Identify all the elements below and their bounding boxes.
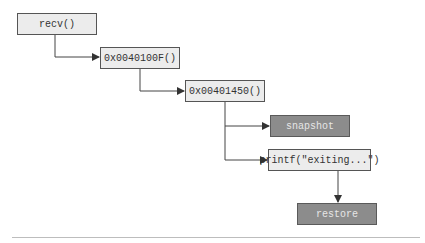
- node-0x00401450: 0x00401450(): [185, 80, 265, 102]
- bottom-divider: [12, 237, 420, 238]
- edge-0040100F-to-00401450: [140, 68, 184, 91]
- node-label: printf("exiting..."): [259, 155, 379, 166]
- node-label: snapshot: [286, 121, 334, 132]
- edge-recv-to-0040100F: [55, 34, 99, 57]
- edge-00401450-to-snapshot: [225, 101, 269, 126]
- node-label: 0x00401450(): [189, 86, 261, 97]
- node-snapshot: snapshot: [270, 115, 350, 137]
- node-0x0040100F: 0x0040100F(): [100, 47, 180, 69]
- node-label: restore: [316, 209, 358, 220]
- node-label: 0x0040100F(): [104, 53, 176, 64]
- node-recv: recv(): [17, 13, 97, 35]
- node-printf: printf("exiting..."): [268, 149, 371, 171]
- node-label: recv(): [39, 19, 75, 30]
- node-restore: restore: [297, 203, 377, 225]
